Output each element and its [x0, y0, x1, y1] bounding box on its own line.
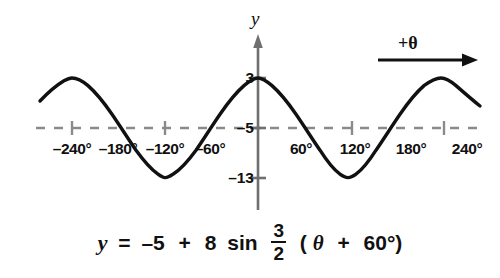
y-tick-minus13-text: –13	[228, 169, 254, 186]
equation-function: sin	[227, 231, 257, 255]
x-tick-60-text: 60°	[290, 140, 312, 157]
y-axis-label: y	[251, 8, 259, 30]
equation-inner-plus: +	[337, 231, 349, 255]
equation-fraction-numerator: 3	[271, 221, 286, 240]
equation-open-paren: (	[300, 231, 307, 255]
equation-caption: y = –5 + 8 sin 3 2 ( θ + 60°)	[0, 222, 500, 265]
equation-equals: =	[118, 231, 130, 255]
equation-plus: +	[179, 231, 191, 255]
y-tick-label-minus5: –5	[218, 119, 254, 137]
y-tick-3-text: 3	[245, 69, 254, 86]
plus-theta-text: +θ	[398, 33, 418, 53]
x-tick-label-minus60: –60°	[173, 140, 247, 158]
equation-close-paren: )	[395, 231, 402, 255]
y-axis-arrowhead	[253, 34, 263, 48]
equation-phase: 60°	[364, 231, 396, 255]
y-tick-label-3: 3	[230, 69, 254, 87]
x-tick-minus60-text: –60°	[195, 140, 225, 157]
y-axis-label-text: y	[251, 8, 259, 29]
direction-arrow	[378, 54, 478, 67]
equation-variable: θ	[313, 231, 324, 256]
trig-graph-svg	[0, 0, 500, 222]
y-tick-minus5-text: –5	[237, 119, 254, 136]
direction-arrow-label: +θ	[398, 33, 418, 54]
x-tick-240-text: 240°	[452, 140, 482, 157]
equation-constant: –5	[141, 231, 164, 255]
x-tick-label-240: 240°	[434, 140, 500, 158]
equation-amplitude: 8	[205, 231, 217, 255]
y-tick-label-minus13: –13	[206, 169, 254, 187]
x-tick-120-text: 120°	[340, 140, 370, 157]
equation-fraction-denominator: 2	[271, 244, 286, 263]
x-tick-180-text: 180°	[396, 140, 426, 157]
equation-fraction: 3 2	[271, 221, 286, 264]
equation-lhs: y	[98, 230, 108, 256]
